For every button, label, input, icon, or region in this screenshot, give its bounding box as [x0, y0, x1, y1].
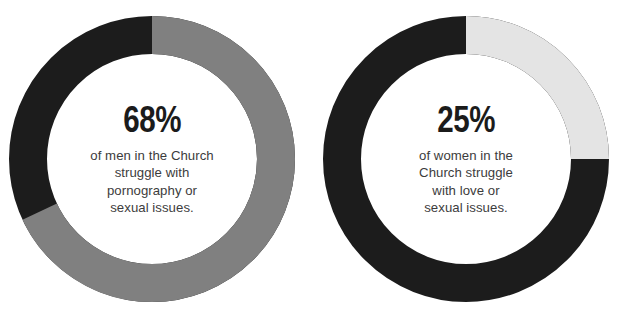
caption-line: sexual issues.	[419, 199, 513, 216]
caption-line: pornography or	[90, 182, 213, 199]
caption-men: of men in the Church struggle with porno…	[90, 147, 213, 216]
donut-figure-men: 68% of men in the Church struggle with p…	[9, 16, 295, 302]
caption-line: struggle with	[90, 164, 213, 181]
caption-line: sexual issues.	[90, 199, 213, 216]
caption-line: Church struggle	[419, 164, 513, 181]
donut-figure-women: 25% of women in the Church struggle with…	[323, 16, 609, 302]
caption-women: of women in the Church struggle with lov…	[419, 147, 513, 216]
donut-center-women: 25% of women in the Church struggle with…	[366, 59, 566, 259]
caption-line: of women in the	[419, 147, 513, 164]
infographic-canvas: 68% of men in the Church struggle with p…	[0, 0, 618, 321]
percent-label-men: 68%	[123, 102, 181, 138]
percent-label-women: 25%	[437, 102, 495, 138]
caption-line: with love or	[419, 182, 513, 199]
donut-center-men: 68% of men in the Church struggle with p…	[52, 59, 252, 259]
caption-line: of men in the Church	[90, 147, 213, 164]
